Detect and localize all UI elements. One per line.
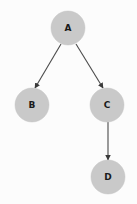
node-d[interactable]: D [91, 160, 125, 194]
edge-a-b[interactable] [35, 44, 61, 88]
node-a-circle[interactable] [51, 11, 85, 45]
node-c[interactable]: C [90, 88, 124, 122]
node-b-circle[interactable] [15, 88, 49, 122]
node-a[interactable]: A [51, 11, 85, 45]
node-b[interactable]: B [15, 88, 49, 122]
node-layer: A B C D [15, 11, 125, 194]
node-d-circle[interactable] [91, 160, 125, 194]
diagram-canvas: A B C D [0, 0, 137, 204]
node-c-circle[interactable] [90, 88, 124, 122]
edge-a-c[interactable] [76, 44, 103, 88]
graph-svg: A B C D [0, 0, 137, 204]
